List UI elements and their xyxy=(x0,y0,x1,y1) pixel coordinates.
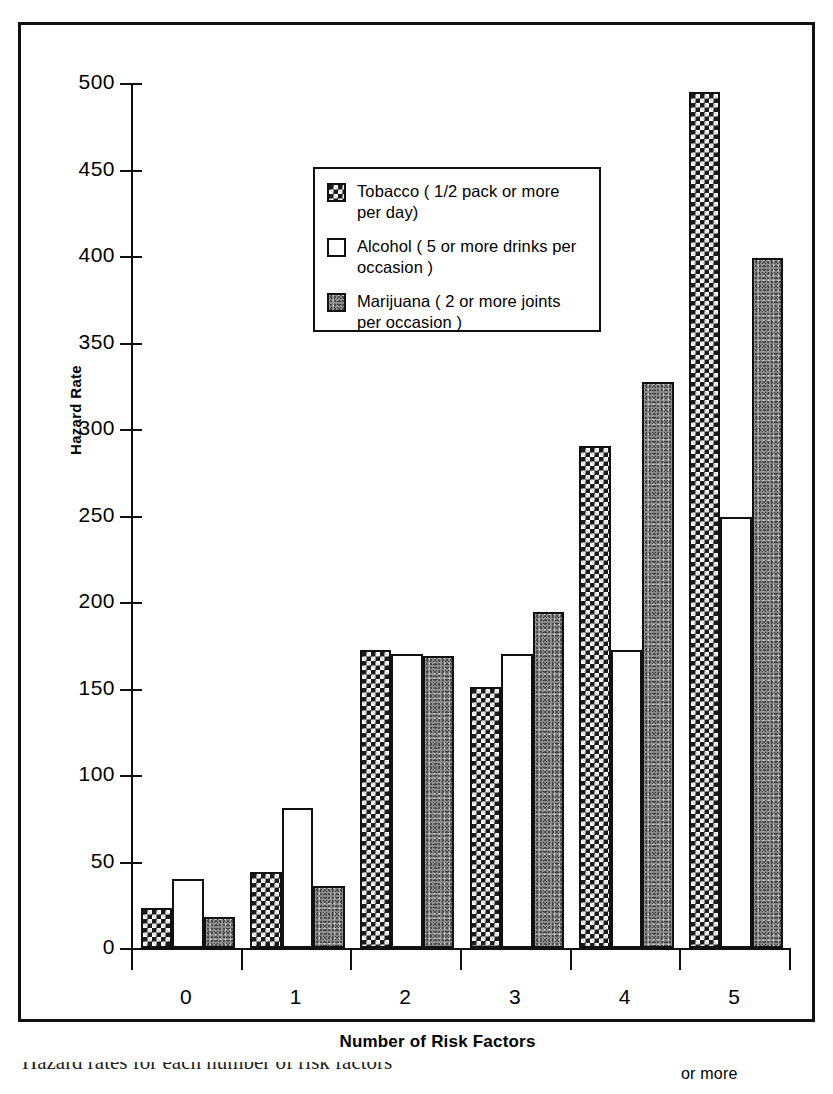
bar-tobacco-4 xyxy=(579,446,610,948)
legend-item-alcohol: Alcohol ( 5 or more drinks per occasion … xyxy=(327,236,589,278)
legend-label-marijuana: Marijuana ( 2 or more joints per occasio… xyxy=(357,291,561,333)
bar-alcohol-4 xyxy=(611,650,642,948)
x-axis-title: Number of Risk Factors xyxy=(21,1032,833,1052)
bar-alcohol-1 xyxy=(282,808,313,948)
figure-frame: 050100150200250300350400450500 012345 Ha… xyxy=(18,22,815,1022)
x-axis-tick-mark xyxy=(460,948,462,970)
y-axis-tick-label: 500 xyxy=(78,70,115,94)
bar-marijuana-3 xyxy=(533,612,564,948)
x-axis-tick-mark xyxy=(350,948,352,970)
bar-alcohol-5 xyxy=(720,517,751,948)
legend: Tobacco ( 1/2 pack or more per day) Alco… xyxy=(313,167,601,332)
bar-tobacco-3 xyxy=(470,687,501,948)
y-axis-tick-label: 100 xyxy=(78,762,115,786)
bar-marijuana-0 xyxy=(204,917,235,948)
y-axis-tick-label: 250 xyxy=(78,503,115,527)
legend-label-tobacco: Tobacco ( 1/2 pack or more per day) xyxy=(357,181,560,223)
y-axis-tick-label: 450 xyxy=(78,157,115,181)
bar-alcohol-3 xyxy=(501,654,532,948)
bar-marijuana-2 xyxy=(423,656,454,948)
x-axis-category-label: 3 xyxy=(460,985,570,1009)
x-axis-category-label: 4 xyxy=(570,985,680,1009)
y-axis-tick-label: 200 xyxy=(78,589,115,613)
y-axis-title: Hazard Rate xyxy=(67,365,84,455)
x-axis-tick-mark xyxy=(241,948,243,970)
legend-label-alcohol: Alcohol ( 5 or more drinks per occasion … xyxy=(357,236,576,278)
x-axis-category-label: 5 xyxy=(679,985,789,1009)
x-axis-tick-mark xyxy=(789,948,791,970)
bar-tobacco-1 xyxy=(250,872,281,948)
x-axis-tick-mark xyxy=(131,948,133,970)
legend-label-alcohol-line2: occasion ) xyxy=(357,258,433,276)
bar-tobacco-0 xyxy=(141,908,172,948)
legend-label-tobacco-line1: Tobacco ( 1/2 pack or more xyxy=(357,182,560,200)
x-axis-tick-mark xyxy=(570,948,572,970)
caption-partial: Hazard rates for each number of risk fac… xyxy=(22,1062,722,1088)
legend-swatch-alcohol-icon xyxy=(327,238,346,257)
legend-label-marijuana-line1: Marijuana ( 2 or more joints xyxy=(357,292,561,310)
x-axis-tick-mark xyxy=(679,948,681,970)
bar-marijuana-1 xyxy=(313,886,344,948)
legend-label-tobacco-line2: per day) xyxy=(357,203,418,221)
legend-label-marijuana-line2: per occasion ) xyxy=(357,313,462,331)
legend-swatch-tobacco-icon xyxy=(327,183,346,202)
legend-item-marijuana: Marijuana ( 2 or more joints per occasio… xyxy=(327,291,589,333)
bar-marijuana-4 xyxy=(642,382,673,948)
bar-alcohol-2 xyxy=(391,654,422,948)
y-axis-tick-label: 350 xyxy=(78,330,115,354)
bar-alcohol-0 xyxy=(172,879,203,948)
x-axis-category-label: 0 xyxy=(131,985,241,1009)
y-axis-tick-label: 150 xyxy=(78,676,115,700)
x-axis-category-label: 1 xyxy=(241,985,351,1009)
legend-swatch-marijuana-icon xyxy=(327,293,346,312)
legend-item-tobacco: Tobacco ( 1/2 pack or more per day) xyxy=(327,181,589,223)
legend-label-alcohol-line1: Alcohol ( 5 or more drinks per xyxy=(357,237,576,255)
caption-partial-text: Hazard rates for each number of risk fac… xyxy=(22,1062,722,1075)
bar-marijuana-5 xyxy=(752,258,783,948)
x-axis-category-label: 2 xyxy=(350,985,460,1009)
y-axis-tick-label: 50 xyxy=(91,849,115,873)
y-axis-tick-label: 0 xyxy=(103,935,115,959)
bar-tobacco-5 xyxy=(689,92,720,948)
bar-tobacco-2 xyxy=(360,650,391,948)
y-axis-tick-label: 400 xyxy=(78,243,115,267)
